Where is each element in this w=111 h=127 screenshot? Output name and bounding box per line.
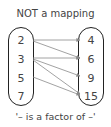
arrow-2-to-6 xyxy=(33,41,80,58)
relation-caption: '– is a factor of –' xyxy=(0,111,111,122)
arrow-5-to-15 xyxy=(33,77,80,95)
arrow-3-to-15 xyxy=(33,60,80,94)
arrow-3-to-9 xyxy=(33,59,80,76)
relation-arrows xyxy=(0,0,111,127)
